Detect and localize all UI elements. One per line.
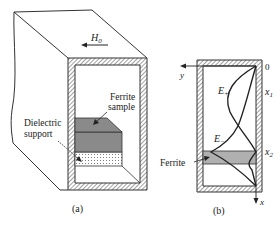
ferrite-sample-front xyxy=(75,132,122,152)
dielectric-support xyxy=(75,152,122,166)
ferrite-sample-label-2: sample xyxy=(108,102,135,112)
y-axis-arrowhead-icon xyxy=(180,64,186,69)
ferrite-band xyxy=(203,151,256,164)
dielectric-label-2: support xyxy=(24,129,53,139)
waveguide-left-edge xyxy=(11,12,68,190)
e-plus-label: E+ xyxy=(217,85,229,98)
x2-label: x2 xyxy=(264,146,273,159)
inner-floor-edge xyxy=(122,166,140,183)
panel-b-cross-section: y x 0 x1 x2 E+ E− Ferrite (b) xyxy=(160,60,273,217)
y-axis-label: y xyxy=(179,70,184,80)
x1-label: x1 xyxy=(264,86,273,99)
x-axis-label: x xyxy=(259,197,264,207)
ferrite-waveguide-figure: H0 Ferrite sample Dielectric support (a)… xyxy=(0,0,280,227)
caption-b: (b) xyxy=(213,205,225,217)
ferrite-label: Ferrite xyxy=(160,158,185,168)
waveguide-top-edge-right xyxy=(92,10,147,58)
h0-arrowhead-icon xyxy=(81,43,87,48)
figure-svg: H0 Ferrite sample Dielectric support (a)… xyxy=(0,0,280,227)
waveguide-top-edge-left xyxy=(14,12,68,58)
dielectric-label-1: Dielectric xyxy=(24,118,61,128)
caption-a: (a) xyxy=(72,203,83,215)
waveguide-back-edge xyxy=(14,10,92,12)
h0-label: H0 xyxy=(90,32,102,45)
e-minus-label: E− xyxy=(213,133,225,146)
e-plus-curve xyxy=(228,66,256,186)
origin-label: 0 xyxy=(265,62,270,72)
panel-a-waveguide: H0 Ferrite sample Dielectric support (a) xyxy=(11,10,147,215)
ferrite-sample-label-1: Ferrite xyxy=(110,92,135,102)
x-axis-arrowhead-icon xyxy=(254,198,259,204)
